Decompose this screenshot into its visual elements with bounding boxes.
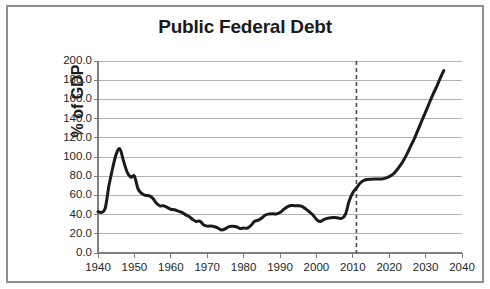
y-tick-label: 40.0 — [46, 208, 92, 220]
y-tick-label: 0.0 — [46, 246, 92, 258]
y-tick-label: 200.0 — [46, 54, 92, 66]
gridlines — [98, 61, 462, 253]
x-axis-ticks — [98, 253, 462, 258]
y-tick-label: 180.0 — [46, 73, 92, 85]
y-tick-label: 60.0 — [46, 188, 92, 200]
y-tick-label: 160.0 — [46, 92, 92, 104]
y-tick-label: 100.0 — [46, 150, 92, 162]
chart-figure: Public Federal Debt % of GDP 0.020.040.0… — [0, 0, 490, 289]
data-series — [98, 71, 444, 230]
x-tick-label: 2040 — [440, 261, 484, 273]
y-tick-label: 140.0 — [46, 112, 92, 124]
y-tick-label: 20.0 — [46, 227, 92, 239]
y-tick-label: 80.0 — [46, 169, 92, 181]
y-tick-label: 120.0 — [46, 131, 92, 143]
